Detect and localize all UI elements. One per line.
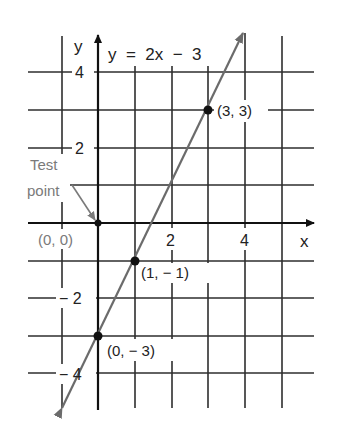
label-point-0-neg3: (0, − 3) — [107, 342, 155, 359]
y-tick-2: 2 — [75, 140, 84, 157]
label-point-1-neg1: (1, − 1) — [141, 264, 189, 281]
point-origin — [95, 220, 102, 227]
y-tick-4: 4 — [75, 64, 84, 81]
point-3-3 — [204, 106, 213, 115]
label-origin: (0, 0) — [38, 231, 73, 248]
test-point-label-line2: point — [27, 182, 60, 199]
y-axis-label: y — [74, 37, 83, 56]
x-axis-label: x — [300, 232, 309, 251]
equation-label: y = 2x − 3 — [108, 45, 202, 64]
y-tick-neg4: − 4 — [59, 366, 82, 383]
point-1-neg1 — [131, 257, 140, 266]
y-tick-neg2: − 2 — [59, 290, 82, 307]
test-point-label-line1: Test — [30, 156, 58, 173]
x-tick-4: 4 — [240, 232, 249, 249]
test-point-arrow — [72, 185, 95, 220]
coordinate-plane: y x y = 2x − 3 4 2 − 2 − 4 2 4 (3, 3) (1… — [0, 0, 337, 426]
point-0-neg3 — [94, 332, 103, 341]
x-tick-2: 2 — [166, 232, 175, 249]
graph-figure: y x y = 2x − 3 4 2 − 2 − 4 2 4 (3, 3) (1… — [0, 0, 337, 426]
label-point-3-3: (3, 3) — [217, 102, 252, 119]
